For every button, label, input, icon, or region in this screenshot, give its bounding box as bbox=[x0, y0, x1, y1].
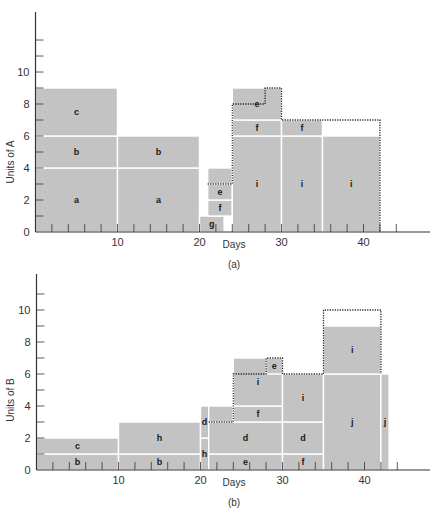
chart-panel-a: abcabgfeifeifi024681010203040DaysUnits o… bbox=[5, 12, 430, 270]
bar-segment-blank bbox=[208, 168, 233, 184]
segment-label: h bbox=[202, 449, 208, 459]
figure: abcabgfeifeifi024681010203040DaysUnits o… bbox=[0, 0, 447, 520]
x-axis-title: Days bbox=[223, 477, 246, 488]
chart-panel-b: bcbhhdedfifdiejij024681010203040DaysUnit… bbox=[5, 274, 430, 508]
y-axis-title: Units of B bbox=[5, 378, 16, 422]
x-axis-title: Days bbox=[223, 239, 246, 250]
segment-label: e bbox=[243, 457, 248, 467]
segment-label: h bbox=[157, 433, 163, 443]
x-tick-label: 40 bbox=[358, 474, 370, 486]
x-tick-label: 10 bbox=[112, 474, 124, 486]
segment-label: c bbox=[75, 441, 80, 451]
segment-label: b bbox=[157, 457, 163, 467]
x-tick-label: 10 bbox=[111, 236, 123, 248]
y-tick-label: 6 bbox=[23, 130, 29, 142]
y-tick-label: 10 bbox=[17, 66, 29, 78]
segment-label: c bbox=[74, 107, 79, 117]
segment-label: i bbox=[257, 377, 260, 387]
y-tick-label: 8 bbox=[24, 336, 30, 348]
y-tick-label: 2 bbox=[24, 432, 30, 444]
x-tick-label: 20 bbox=[194, 474, 206, 486]
segment-label: b bbox=[156, 147, 162, 157]
y-tick-label: 6 bbox=[24, 368, 30, 380]
segment-label: i bbox=[351, 345, 354, 355]
segment-label: b bbox=[75, 457, 81, 467]
y-tick-label: 0 bbox=[23, 226, 29, 238]
segment-label: j bbox=[383, 417, 387, 427]
x-tick-label: 40 bbox=[357, 236, 369, 248]
segment-label: i bbox=[350, 179, 353, 189]
segment-label: e bbox=[272, 361, 277, 371]
y-tick-label: 2 bbox=[23, 194, 29, 206]
panel-caption: (b) bbox=[228, 497, 240, 508]
segment-label: i bbox=[302, 393, 305, 403]
segment-label: e bbox=[217, 187, 222, 197]
bar-segments: bcbhhdedfifdiejij bbox=[37, 326, 390, 470]
y-tick-label: 10 bbox=[18, 304, 30, 316]
bar-segments: abcabgfeifeifi bbox=[36, 88, 380, 232]
segment-label: d bbox=[243, 433, 249, 443]
segment-label: i bbox=[256, 179, 259, 189]
bar-segment-blank bbox=[209, 406, 234, 422]
y-tick-label: 0 bbox=[24, 464, 30, 476]
x-tick-label: 30 bbox=[276, 474, 288, 486]
y-tick-label: 4 bbox=[23, 162, 29, 174]
panel-caption: (a) bbox=[228, 259, 240, 270]
segment-label: d bbox=[300, 433, 306, 443]
segment-label: j bbox=[350, 417, 354, 427]
segment-label: g bbox=[209, 219, 215, 229]
y-tick-label: 8 bbox=[23, 98, 29, 110]
y-tick-label: 4 bbox=[24, 400, 30, 412]
segment-label: b bbox=[74, 147, 80, 157]
segment-label: d bbox=[202, 417, 208, 427]
x-tick-label: 30 bbox=[275, 236, 287, 248]
x-tick-label: 20 bbox=[193, 236, 205, 248]
y-axis-title: Units of A bbox=[5, 140, 16, 183]
resource-profile-charts: abcabgfeifeifi024681010203040DaysUnits o… bbox=[0, 0, 447, 520]
segment-label: i bbox=[301, 179, 304, 189]
